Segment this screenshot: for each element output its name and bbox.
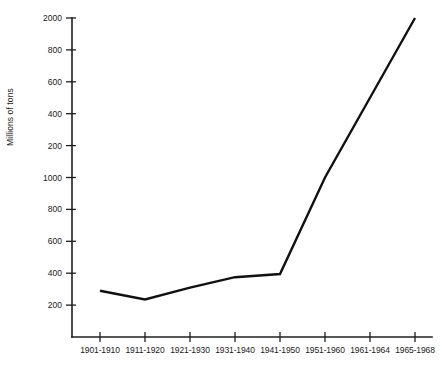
axes — [72, 18, 432, 337]
y-tick-label: 400 — [26, 269, 62, 278]
x-tick-label: 1951-1960 — [305, 346, 345, 355]
data-series-line — [100, 18, 415, 300]
x-tick-label: 1941-1950 — [260, 346, 300, 355]
x-tick-label: 1911-1920 — [125, 346, 164, 355]
y-tick-label: 200 — [26, 301, 62, 310]
y-tick-label: 600 — [26, 237, 62, 246]
y-axis-ticks — [66, 18, 76, 305]
y-tick-label: 600 — [26, 77, 62, 86]
y-tick-label: 2000 — [26, 14, 62, 23]
x-tick-label: 1931-1940 — [215, 346, 255, 355]
x-tick-label: 1901-1910 — [80, 346, 120, 355]
x-tick-label: 1921-1930 — [170, 346, 210, 355]
y-tick-label: 400 — [26, 109, 62, 118]
y-axis-title: Millions of tons — [5, 132, 15, 146]
x-tick-label: 1961-1964 — [350, 346, 390, 355]
y-tick-label: 200 — [26, 141, 62, 150]
x-tick-label: 1965-1968 — [395, 346, 435, 355]
y-tick-label: 800 — [26, 45, 62, 54]
chart-plot-area — [0, 0, 448, 365]
y-tick-label: 1000 — [26, 173, 62, 182]
y-tick-label: 800 — [26, 205, 62, 214]
line-chart: Millions of tons 20008006004002001000800… — [0, 0, 448, 365]
